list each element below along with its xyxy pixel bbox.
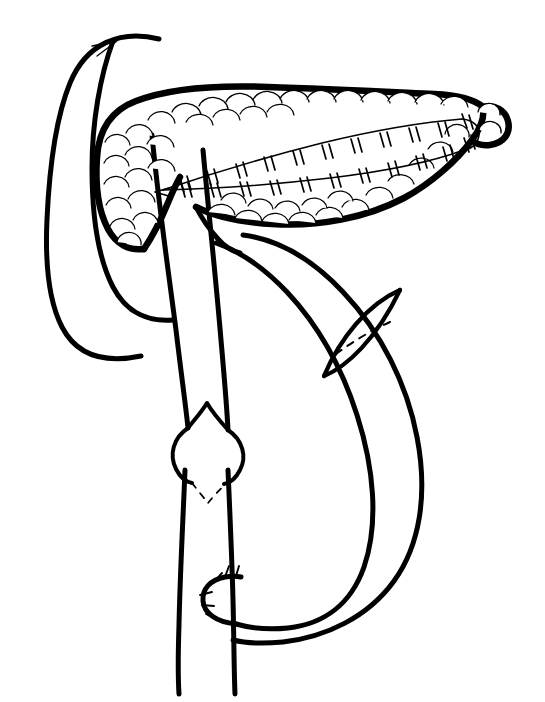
surgical-diagram-svg: [0, 0, 545, 702]
figure-root: Lateral pancreaticojejunostomy with Roux…: [0, 0, 545, 702]
